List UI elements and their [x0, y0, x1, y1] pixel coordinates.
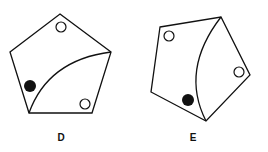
curve-d: [29, 52, 111, 113]
figure-d: [10, 14, 111, 113]
open-circle-e-right: [234, 67, 244, 77]
curve-e: [196, 17, 221, 121]
open-circle-d-top: [56, 22, 66, 32]
diagram-canvas: [0, 0, 268, 152]
filled-circle-d: [24, 80, 36, 92]
figure-label-d: D: [57, 132, 64, 143]
filled-circle-e: [182, 94, 194, 106]
figure-label-e: E: [190, 132, 197, 143]
open-circle-d-bottom: [80, 99, 90, 109]
open-circle-e-top: [164, 31, 174, 41]
figure-e: [151, 17, 250, 121]
